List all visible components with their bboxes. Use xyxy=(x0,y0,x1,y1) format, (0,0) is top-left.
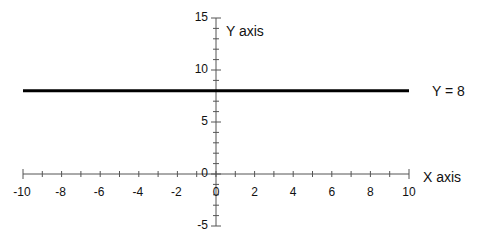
x-tick-label: 2 xyxy=(247,186,263,198)
y-tick-label: -5 xyxy=(180,219,208,231)
x-axis-title: X axis xyxy=(423,170,461,184)
x-tick-label: 0 xyxy=(208,186,224,198)
x-tick-label: -10 xyxy=(12,186,32,198)
x-tick-label: -4 xyxy=(128,186,148,198)
y-tick-label: 10 xyxy=(180,63,208,75)
x-tick-label: 4 xyxy=(285,186,301,198)
x-tick-label: -6 xyxy=(89,186,109,198)
line-label: Y = 8 xyxy=(432,84,465,98)
y-axis-title: Y axis xyxy=(226,24,264,38)
y-tick-label: 0 xyxy=(180,167,208,179)
x-tick-label: 10 xyxy=(401,186,417,198)
y-tick-label: 15 xyxy=(180,11,208,23)
y-tick-label: 5 xyxy=(180,115,208,127)
x-tick-label: -2 xyxy=(166,186,186,198)
x-tick-label: 8 xyxy=(362,186,378,198)
chart: -10-8-6-4-20246810-5051015 Y axis X axis… xyxy=(0,0,484,246)
x-tick-label: 6 xyxy=(324,186,340,198)
x-tick-label: -8 xyxy=(51,186,71,198)
